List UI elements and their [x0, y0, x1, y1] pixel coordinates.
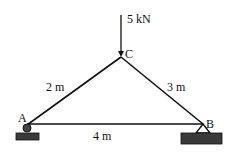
node-b-label: B — [206, 117, 214, 131]
member-ab-length: 4 m — [93, 129, 112, 143]
member-cb-length: 3 m — [167, 80, 186, 94]
member-cb — [121, 57, 203, 124]
node-c-label: C — [125, 47, 133, 61]
node-a-label: A — [18, 111, 27, 125]
roller-support-a — [16, 124, 39, 140]
member-ac — [27, 57, 121, 125]
member-ac-length: 2 m — [46, 80, 65, 94]
pin-support-b — [181, 124, 222, 144]
load-label: 5 kN — [127, 12, 151, 26]
truss-diagram: 5 kN C A B 2 m 3 m 4 m — [0, 0, 239, 159]
